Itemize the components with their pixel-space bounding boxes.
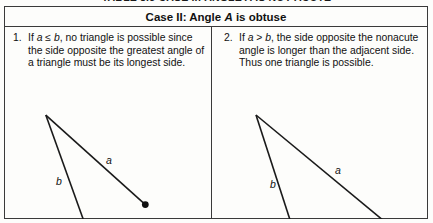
table-cell-case-1: 1. If a ≤ b, no triangle is possible sin…: [5, 27, 212, 219]
table-caption-text: TABLE 8.3 CASE II: ANGLE A IS NOT ACUTE: [102, 0, 331, 3]
case-1-side-b-line: [46, 115, 88, 219]
case-1-text-before: If: [28, 32, 37, 43]
case-2-label-side-b: b: [270, 179, 276, 189]
case-1-text: If a ≤ b, no triangle is possible since …: [28, 32, 205, 70]
header-suffix: is obtuse: [233, 11, 287, 23]
page-root: TABLE 8.3 CASE II: ANGLE A IS NOT ACUTE …: [0, 0, 433, 223]
case-1-statement: 1. If a ≤ b, no triangle is possible sin…: [13, 32, 205, 70]
case-1-endpoint-dot: [142, 201, 149, 208]
case-2-text-before: If: [239, 32, 248, 43]
case-1-side-a-line: [46, 115, 146, 205]
case-2-statement: 2. If a > b, the side opposite the nonac…: [224, 32, 420, 70]
case-2-relation: >: [253, 32, 265, 43]
case-2-label-side-a: a: [335, 165, 341, 175]
header-prefix: Case II: Angle: [146, 11, 225, 23]
case-1-label-side-b: b: [56, 176, 62, 186]
table-header-title: Case II: Angle A is obtuse: [146, 11, 287, 23]
case-ii-table: Case II: Angle A is obtuse 1. If a ≤ b, …: [4, 6, 428, 219]
case-2-text: If a > b, the side opposite the nonacute…: [239, 32, 420, 70]
case-1-label-side-a: a: [106, 155, 112, 165]
header-variable: A: [224, 11, 232, 23]
table-cell-case-2: 2. If a > b, the side opposite the nonac…: [212, 27, 427, 219]
table-caption: TABLE 8.3 CASE II: ANGLE A IS NOT ACUTE: [0, 0, 433, 5]
case-2-side-a-line: [256, 115, 390, 219]
case-2-side-b-line: [256, 115, 292, 219]
table-header-row: Case II: Angle A is obtuse: [5, 7, 427, 27]
case-1-relation: ≤: [42, 32, 53, 43]
case-1-number: 1.: [13, 32, 28, 70]
table-body-row: 1. If a ≤ b, no triangle is possible sin…: [5, 27, 427, 219]
case-2-number: 2.: [224, 32, 239, 70]
